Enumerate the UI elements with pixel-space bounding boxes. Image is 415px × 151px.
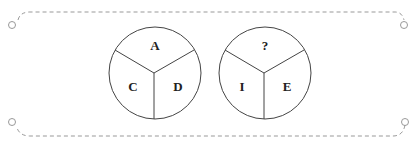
puzzle-diagram: A C D ? I E	[0, 0, 415, 151]
segment-right-label: D	[173, 79, 182, 94]
circle-1: A C D	[109, 27, 201, 119]
ring-icon	[402, 119, 409, 126]
segment-top-label: A	[150, 38, 160, 53]
ring-icon	[9, 22, 16, 29]
segment-top-label: ?	[262, 38, 269, 53]
segment-right-label: E	[283, 79, 292, 94]
ring-icon	[9, 119, 16, 126]
dashed-frame	[17, 12, 405, 136]
ring-icon	[401, 22, 408, 29]
segment-left-label: C	[128, 79, 137, 94]
segment-left-label: I	[239, 79, 244, 94]
circle-2: ? I E	[219, 27, 311, 119]
